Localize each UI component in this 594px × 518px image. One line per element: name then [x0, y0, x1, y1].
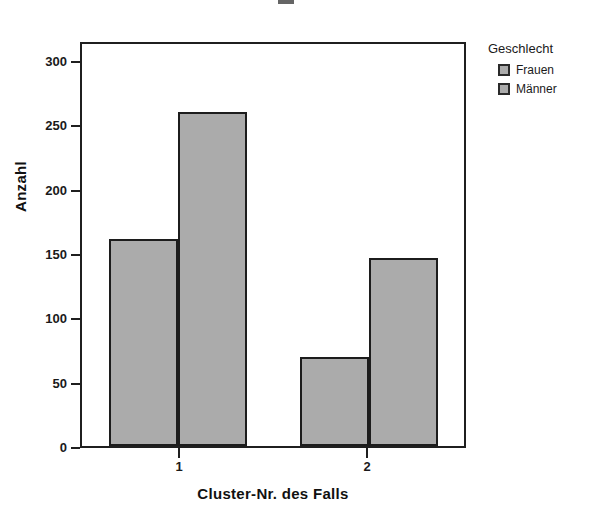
y-tick-label: 100	[45, 310, 67, 327]
legend: Geschlecht Frauen Männer	[486, 40, 590, 100]
y-tick-mark	[71, 254, 80, 256]
legend-swatch-icon	[498, 64, 510, 76]
y-tick-label: 250	[45, 117, 67, 134]
y-tick-label: 0	[60, 439, 67, 456]
y-axis-title: Anzahl	[12, 161, 29, 212]
y-tick-mark	[71, 447, 80, 449]
legend-item-label: Männer	[516, 81, 557, 97]
plot-area	[82, 44, 464, 446]
y-tick-mark	[71, 61, 80, 63]
bar-chart: 300 250 200 150 100 50 0 Anzahl	[0, 0, 594, 518]
y-tick-label: 150	[45, 246, 67, 263]
y-tick-mark	[71, 318, 80, 320]
bar-frauen-1	[109, 239, 178, 446]
bar-männer-2	[369, 258, 438, 446]
legend-item-frauen[interactable]: Frauen	[486, 62, 590, 78]
legend-title: Geschlecht	[486, 40, 590, 58]
x-tick-label: 1	[159, 459, 199, 475]
y-tick-mark	[71, 125, 80, 127]
y-tick-label: 200	[45, 182, 67, 199]
y-tick-mark	[71, 190, 80, 192]
bar-männer-1	[178, 112, 247, 446]
bar-frauen-2	[300, 357, 369, 446]
cropped-title-remnant	[278, 0, 294, 4]
y-axis: 300 250 200 150 100 50 0	[0, 0, 80, 518]
plot-area-frame	[80, 42, 466, 448]
legend-item-label: Frauen	[516, 62, 554, 78]
y-tick-label: 300	[45, 53, 67, 70]
x-tick-mark	[178, 448, 180, 458]
y-tick-mark	[71, 383, 80, 385]
legend-item-maenner[interactable]: Männer	[486, 81, 590, 97]
x-tick-label: 2	[347, 459, 387, 475]
x-tick-mark	[366, 448, 368, 458]
y-tick-label: 50	[53, 375, 67, 392]
x-axis-title: Cluster-Nr. des Falls	[80, 485, 466, 502]
legend-swatch-icon	[498, 83, 510, 95]
